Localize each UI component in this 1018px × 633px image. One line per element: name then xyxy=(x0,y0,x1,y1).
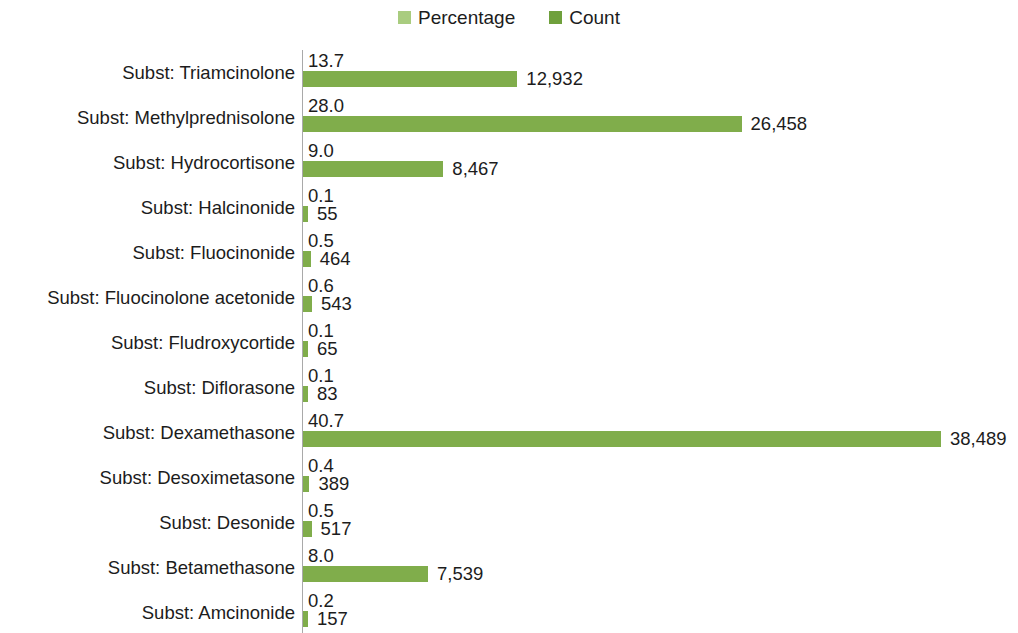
bar-row: Subst: Hydrocortisone8,4679.0 xyxy=(0,140,1018,185)
plot-area: Subst: Triamcinolone12,93213.7Subst: Met… xyxy=(0,50,1018,633)
percentage-value-label: 0.2 xyxy=(308,591,334,611)
count-value-label: 12,932 xyxy=(526,71,583,87)
count-bar[interactable] xyxy=(303,71,517,87)
bar-row: Subst: Fludroxycortide650.1 xyxy=(0,320,1018,365)
count-bar[interactable] xyxy=(303,296,312,312)
percentage-value-label: 0.1 xyxy=(308,366,334,386)
percentage-value-label: 0.5 xyxy=(308,501,334,521)
category-label: Subst: Amcinonide xyxy=(142,590,295,633)
bar-row: Subst: Triamcinolone12,93213.7 xyxy=(0,50,1018,95)
count-bar[interactable] xyxy=(303,566,428,582)
bar-chart: Percentage Count Subst: Triamcinolone12,… xyxy=(0,0,1018,633)
legend-label-percentage: Percentage xyxy=(418,8,515,27)
count-value-label: 157 xyxy=(317,611,348,627)
category-label: Subst: Triamcinolone xyxy=(122,50,295,95)
bar-wrapper: 550.1 xyxy=(303,185,1018,230)
category-label: Subst: Fluocinonide xyxy=(133,230,296,275)
bar-wrapper: 650.1 xyxy=(303,320,1018,365)
bar-wrapper: 830.1 xyxy=(303,365,1018,410)
count-bar[interactable] xyxy=(303,206,308,222)
square-swatch-icon xyxy=(398,11,411,24)
count-bar[interactable] xyxy=(303,431,941,447)
category-label: Subst: Desoximetasone xyxy=(100,455,295,500)
legend-entry-count[interactable]: Count xyxy=(549,8,620,27)
bar-wrapper: 4640.5 xyxy=(303,230,1018,275)
count-value-label: 7,539 xyxy=(437,566,483,582)
bar-wrapper: 7,5398.0 xyxy=(303,545,1018,590)
percentage-value-label: 0.4 xyxy=(308,456,334,476)
percentage-value-label: 8.0 xyxy=(308,546,334,566)
category-label: Subst: Diflorasone xyxy=(144,365,295,410)
category-label: Subst: Fludroxycortide xyxy=(111,320,295,365)
count-value-label: 464 xyxy=(320,251,351,267)
bar-wrapper: 1570.2 xyxy=(303,590,1018,633)
bar-wrapper: 38,48940.7 xyxy=(303,410,1018,455)
square-swatch-icon xyxy=(549,11,562,24)
percentage-value-label: 13.7 xyxy=(308,51,344,71)
count-value-label: 8,467 xyxy=(452,161,498,177)
bar-row: Subst: Methylprednisolone26,45828.0 xyxy=(0,95,1018,140)
category-label: Subst: Hydrocortisone xyxy=(113,140,295,185)
bar-row: Subst: Desoximetasone3890.4 xyxy=(0,455,1018,500)
category-label: Subst: Halcinonide xyxy=(141,185,295,230)
count-bar[interactable] xyxy=(303,161,443,177)
percentage-value-label: 0.6 xyxy=(308,276,334,296)
count-value-label: 543 xyxy=(321,296,352,312)
bar-row: Subst: Dexamethasone38,48940.7 xyxy=(0,410,1018,455)
bar-wrapper: 8,4679.0 xyxy=(303,140,1018,185)
category-label: Subst: Fluocinolone acetonide xyxy=(47,275,295,320)
count-bar[interactable] xyxy=(303,611,308,627)
legend-entry-percentage[interactable]: Percentage xyxy=(398,8,515,27)
bar-row: Subst: Amcinonide1570.2 xyxy=(0,590,1018,633)
bar-wrapper: 26,45828.0 xyxy=(303,95,1018,140)
bar-row: Subst: Betamethasone7,5398.0 xyxy=(0,545,1018,590)
count-value-label: 26,458 xyxy=(751,116,808,132)
bar-wrapper: 5170.5 xyxy=(303,500,1018,545)
chart-legend: Percentage Count xyxy=(0,2,1018,32)
count-bar[interactable] xyxy=(303,116,742,132)
count-value-label: 65 xyxy=(317,341,338,357)
bar-row: Subst: Fluocinonide4640.5 xyxy=(0,230,1018,275)
bar-row: Subst: Desonide5170.5 xyxy=(0,500,1018,545)
bar-wrapper: 5430.6 xyxy=(303,275,1018,320)
count-value-label: 55 xyxy=(317,206,338,222)
percentage-value-label: 0.1 xyxy=(308,321,334,341)
bar-wrapper: 12,93213.7 xyxy=(303,50,1018,95)
count-bar[interactable] xyxy=(303,521,312,537)
percentage-value-label: 0.1 xyxy=(308,186,334,206)
category-label: Subst: Methylprednisolone xyxy=(77,95,295,140)
count-value-label: 517 xyxy=(321,521,352,537)
category-label: Subst: Betamethasone xyxy=(108,545,295,590)
legend-label-count: Count xyxy=(569,8,620,27)
percentage-value-label: 40.7 xyxy=(308,411,344,431)
count-bar[interactable] xyxy=(303,251,311,267)
count-value-label: 83 xyxy=(317,386,338,402)
bar-row: Subst: Diflorasone830.1 xyxy=(0,365,1018,410)
percentage-value-label: 9.0 xyxy=(308,141,334,161)
bar-row: Subst: Halcinonide550.1 xyxy=(0,185,1018,230)
bar-wrapper: 3890.4 xyxy=(303,455,1018,500)
percentage-value-label: 28.0 xyxy=(308,96,344,116)
count-bar[interactable] xyxy=(303,386,308,402)
count-value-label: 38,489 xyxy=(950,431,1007,447)
count-value-label: 389 xyxy=(318,476,349,492)
category-label: Subst: Desonide xyxy=(159,500,295,545)
percentage-value-label: 0.5 xyxy=(308,231,334,251)
count-bar[interactable] xyxy=(303,341,308,357)
count-bar[interactable] xyxy=(303,476,309,492)
category-label: Subst: Dexamethasone xyxy=(103,410,295,455)
bar-row: Subst: Fluocinolone acetonide5430.6 xyxy=(0,275,1018,320)
